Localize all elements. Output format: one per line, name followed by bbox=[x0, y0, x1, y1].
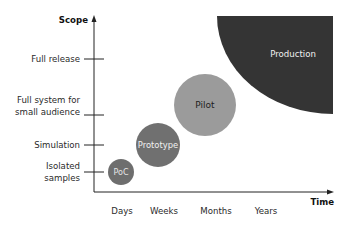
tick-label-simulation: Simulation bbox=[34, 140, 80, 150]
pilot-label: Pilot bbox=[195, 100, 215, 110]
y-axis-arrow-icon bbox=[92, 15, 97, 22]
x-label-months: Months bbox=[200, 206, 232, 216]
prototype-label: Prototype bbox=[138, 140, 178, 150]
x-label-years: Years bbox=[254, 206, 278, 216]
tick-label-full-system-line2: small audience bbox=[15, 107, 80, 117]
tick-label-isolated-line2: samples bbox=[44, 173, 80, 183]
production-label: Production bbox=[270, 49, 316, 59]
y-axis-title: Scope bbox=[59, 15, 88, 25]
x-axis-title: Time bbox=[310, 197, 334, 207]
x-label-weeks: Weeks bbox=[150, 206, 179, 216]
tick-label-full-release: Full release bbox=[31, 54, 80, 64]
x-axis-arrow-icon bbox=[327, 190, 334, 195]
poc-label: PoC bbox=[113, 168, 128, 177]
scope-time-diagram: Production Pilot Prototype PoC Scope Tim… bbox=[0, 0, 344, 228]
tick-label-full-system-line1: Full system for bbox=[17, 95, 81, 105]
x-label-days: Days bbox=[111, 206, 133, 216]
tick-label-isolated-line1: Isolated bbox=[46, 161, 80, 171]
